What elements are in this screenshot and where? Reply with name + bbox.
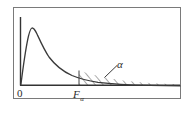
alpha-leader-line bbox=[105, 66, 118, 78]
critical-value-subscript: α bbox=[80, 95, 84, 103]
origin-label: 0 bbox=[17, 87, 23, 99]
tail-area-label: α bbox=[117, 58, 123, 70]
figure-canvas: 0 Fα α bbox=[0, 0, 194, 114]
critical-value-base: F bbox=[72, 88, 80, 100]
critical-value-label: Fα bbox=[72, 88, 84, 103]
f-distribution-figure: 0 Fα α bbox=[0, 0, 194, 114]
